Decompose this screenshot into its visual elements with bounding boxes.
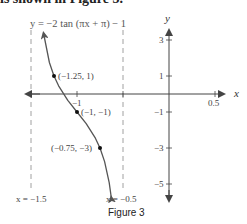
asymptote-right-label: x = −0.5 bbox=[106, 194, 137, 204]
asymptote-left-label: x = −1.5 bbox=[16, 194, 47, 204]
point-label-3: (−0.75, −3) bbox=[51, 143, 92, 153]
y-tick-label-1: 1 bbox=[159, 71, 164, 81]
y-axis-label: y bbox=[164, 12, 170, 24]
point-label-2: (−1, −1) bbox=[81, 107, 111, 117]
x-axis-label: x bbox=[233, 87, 239, 99]
point-neg1.25-1 bbox=[52, 74, 56, 78]
y-tick-label-3: 3 bbox=[159, 35, 164, 45]
figure-caption: Figure 3 bbox=[108, 207, 145, 218]
y-tick-label-neg3: −3 bbox=[154, 143, 164, 153]
point-label-1: (−1.25, 1) bbox=[58, 71, 94, 81]
x-tick-label-0.5: 0.5 bbox=[208, 98, 220, 108]
point-neg0.75-neg3 bbox=[98, 146, 102, 150]
equation-label: y = −2 tan (πx + π) − 1 bbox=[30, 18, 126, 30]
tangent-graph: −1 0.5 3 1 −1 −3 −5 x y y = −2 tan (πx +… bbox=[0, 0, 247, 224]
y-tick-label-neg5: −5 bbox=[154, 179, 164, 189]
point-neg1-neg1 bbox=[75, 110, 79, 114]
y-tick-label-neg1: −1 bbox=[154, 107, 164, 117]
